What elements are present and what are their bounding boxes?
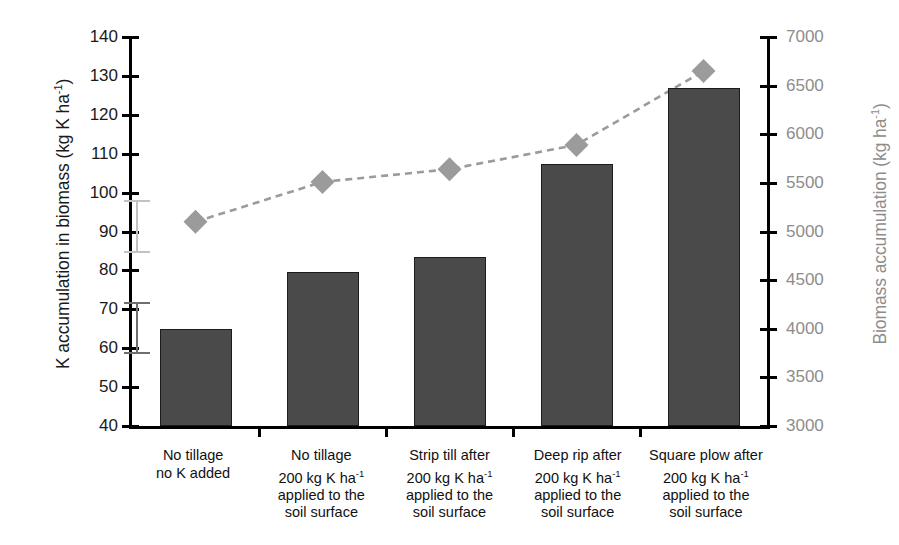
y-axis-right-tick-5000: 5000	[786, 223, 824, 240]
y-axis-left-tick-labels: 140130120110100908070605040	[50, 0, 118, 545]
biomass-marker-0[interactable]	[184, 210, 208, 234]
x-axis-tickmark-3	[512, 426, 515, 437]
y-axis-right-title-text: Biomass accumulation (kg ha	[870, 119, 890, 345]
bar-2[interactable]	[414, 257, 486, 426]
y-axis-left-tick-100: 100	[90, 184, 118, 201]
error-bar-cap-top-1	[124, 200, 150, 202]
y-axis-right-tick-7000: 7000	[786, 28, 824, 45]
y-axis-right-tick-6000: 6000	[786, 125, 824, 142]
x-axis-category-label-3: Deep rip after200 kg K ha-1applied to th…	[514, 447, 642, 539]
x-axis-category-label-0: No tillageno K added	[129, 447, 257, 539]
error-bar-1	[124, 200, 150, 252]
bar-3[interactable]	[541, 164, 613, 426]
y-axis-left-tick-140: 140	[90, 28, 118, 45]
biomass-marker-2[interactable]	[438, 157, 462, 181]
y-axis-left-tick-40: 40	[99, 417, 118, 434]
x-axis-tickmark-1	[258, 426, 261, 437]
y-axis-right-tick-3500: 3500	[786, 368, 824, 385]
x-axis-category-label-2: Strip till after200 kg K ha-1applied to …	[385, 447, 513, 539]
y-axis-left-tick-90: 90	[99, 223, 118, 240]
plot-area	[132, 37, 767, 426]
y-axis-right-tick-labels: 700065006000550050004500400035003000	[786, 0, 866, 545]
error-bar-0	[124, 302, 150, 354]
x-axis-tickmark-4	[639, 426, 642, 437]
y-axis-left-tick-70: 70	[99, 300, 118, 317]
y-axis-right-title-tail: )	[870, 103, 890, 109]
y-axis-left-tick-60: 60	[99, 339, 118, 356]
y-axis-right-tick-3000: 3000	[786, 417, 824, 434]
y-axis-left-tick-120: 120	[90, 106, 118, 123]
bar-4[interactable]	[668, 88, 740, 426]
x-axis-category-label-1: No tillage200 kg K ha-1applied to thesoi…	[257, 447, 385, 539]
y-axis-left-tick-80: 80	[99, 261, 118, 278]
y-axis-right-tick-4000: 4000	[786, 320, 824, 337]
error-bar-cap-bottom-1	[124, 251, 150, 253]
biomass-marker-1[interactable]	[311, 170, 335, 194]
y-axis-right-tick-6500: 6500	[786, 77, 824, 94]
x-axis-category-labels: No tillageno K addedNo tillage200 kg K h…	[129, 447, 770, 539]
biomass-line	[196, 71, 704, 222]
x-axis-category-label-4: Square plow after200 kg K ha-1applied to…	[642, 447, 770, 539]
error-bar-cap-bottom-0	[124, 352, 150, 354]
y-axis-right-tick-4500: 4500	[786, 271, 824, 288]
biomass-marker-3[interactable]	[565, 133, 589, 157]
y-axis-left-tick-50: 50	[99, 378, 118, 395]
biomass-marker-4[interactable]	[692, 59, 716, 83]
x-axis-tickmark-2	[385, 426, 388, 437]
error-bar-stem-1	[136, 200, 138, 252]
chart-container: K accumulation in biomass (kg K ha-1) Bi…	[0, 0, 899, 545]
x-axis-line	[129, 426, 770, 429]
y-axis-right-title: Biomass accumulation (kg ha-1)	[869, 44, 891, 404]
y-axis-left-tick-130: 130	[90, 67, 118, 84]
y-axis-left-tick-110: 110	[91, 145, 118, 162]
error-bar-stem-0	[136, 302, 138, 354]
bar-0[interactable]	[160, 329, 232, 426]
y-axis-right-title-exponent: -1	[869, 109, 881, 119]
bar-1[interactable]	[287, 272, 359, 426]
error-bar-cap-top-0	[124, 302, 150, 304]
y-axis-right-tick-5500: 5500	[786, 174, 824, 191]
